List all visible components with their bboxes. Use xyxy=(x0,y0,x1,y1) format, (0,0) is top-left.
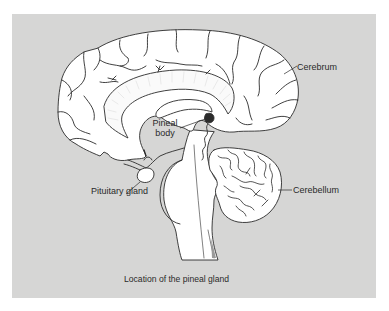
label-cerebrum: Cerebrum xyxy=(297,62,337,72)
cerebellum xyxy=(209,148,282,223)
label-cerebellum: Cerebellum xyxy=(293,185,339,195)
figure-caption: Location of the pineal gland xyxy=(124,274,229,284)
brainstem xyxy=(164,130,222,260)
pituitary-gland xyxy=(137,168,154,183)
pineal-body xyxy=(205,113,215,123)
brain-sagittal-diagram xyxy=(0,0,389,311)
label-pineal-body: Pineal body xyxy=(150,118,180,138)
label-pineal-line1: Pineal xyxy=(150,118,180,128)
label-pineal-line2: body xyxy=(150,128,180,138)
label-pituitary-gland: Pituitary gland xyxy=(91,186,148,196)
